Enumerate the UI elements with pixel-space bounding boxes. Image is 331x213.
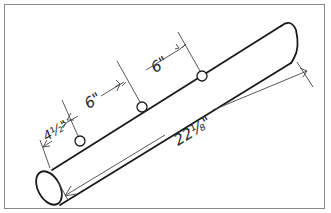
tube-right-end-cap bbox=[281, 23, 298, 63]
dim-label-end-to-hole1: 4½" bbox=[40, 117, 71, 144]
dim-label-overall-length: 22⅛" bbox=[171, 113, 215, 150]
dim-label-hole1-to-hole2: 6" bbox=[81, 89, 104, 113]
ext-hole-3 bbox=[178, 32, 200, 71]
extension-lines bbox=[40, 32, 313, 200]
ext-hole-2 bbox=[117, 61, 140, 102]
hole-3 bbox=[197, 71, 207, 81]
hole-1 bbox=[75, 136, 85, 146]
hole-2 bbox=[137, 102, 147, 112]
tube-body bbox=[52, 23, 298, 205]
dowel-diagram: 4½" 6" 6" 22⅛" bbox=[0, 0, 331, 213]
dim-label-hole2-to-hole3: 6" bbox=[148, 53, 171, 77]
